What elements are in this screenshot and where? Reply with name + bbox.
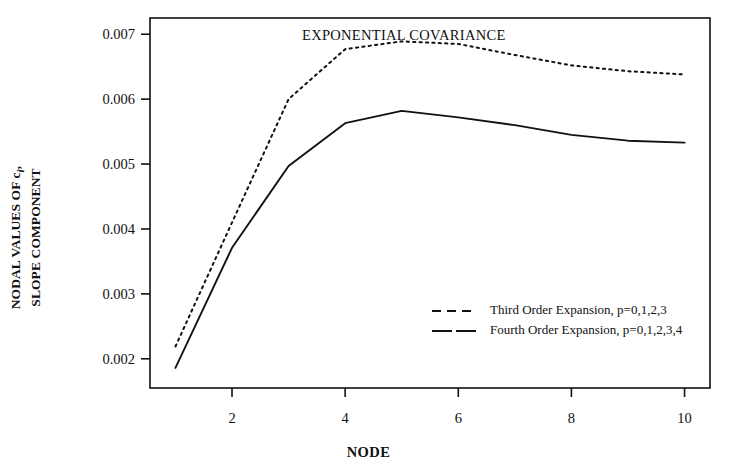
y-axis-tick-label: 0.005 — [40, 156, 135, 173]
x-axis-title: NODE — [0, 444, 737, 461]
legend-item-third-order: Third Order Expansion, p=0,1,2,3 — [432, 300, 682, 320]
x-axis-tick-label: 4 — [342, 410, 349, 427]
y-axis-tick-label: 0.002 — [40, 350, 135, 367]
chart-legend: Third Order Expansion, p=0,1,2,3 Fourth … — [432, 300, 682, 340]
legend-label-third-order: Third Order Expansion, p=0,1,2,3 — [490, 302, 667, 318]
x-axis-tick-label: 10 — [677, 410, 692, 427]
y-axis-tick-label: 0.003 — [40, 285, 135, 302]
legend-label-fourth-order: Fourth Order Expansion, p=0,1,2,3,4 — [490, 322, 682, 338]
chart-figure: NODAL VALUES OF ci, SLOPE COMPONENT EXPO… — [0, 0, 737, 475]
x-axis-tick-label: 8 — [568, 410, 575, 427]
legend-swatch-solid — [432, 324, 480, 336]
y-axis-tick-label: 0.006 — [40, 91, 135, 108]
x-axis-tick-label: 2 — [228, 410, 235, 427]
plot-area — [0, 0, 737, 475]
x-axis-tick-label: 6 — [455, 410, 462, 427]
chart-annotation: EXPONENTIAL COVARIANCE — [302, 27, 506, 44]
legend-item-fourth-order: Fourth Order Expansion, p=0,1,2,3,4 — [432, 320, 682, 340]
y-axis-tick-label: 0.007 — [40, 26, 135, 43]
y-axis-tick-label: 0.004 — [40, 220, 135, 237]
legend-swatch-dashed — [432, 304, 480, 316]
